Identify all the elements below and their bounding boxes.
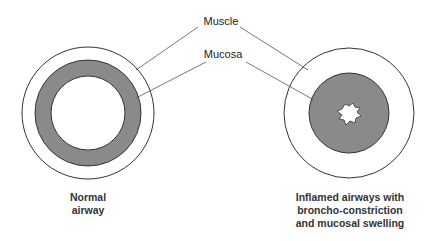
- caption-line: airway: [58, 204, 118, 217]
- leader-lines: [136, 27, 314, 100]
- caption-line: Normal: [58, 191, 118, 204]
- normal-lumen: [51, 76, 125, 150]
- muscle-label: Muscle: [201, 15, 241, 28]
- inflamed-airway-caption: Inflamed airways with broncho-constricti…: [288, 191, 412, 230]
- caption-line: and mucosal swelling: [288, 217, 412, 230]
- caption-line: broncho-constriction: [288, 204, 412, 217]
- caption-line: Inflamed airways with: [288, 191, 412, 204]
- normal-airway-caption: Normal airway: [58, 191, 118, 217]
- normal-airway: [22, 47, 154, 179]
- mucosa-label: Mucosa: [201, 48, 245, 61]
- airway-diagram: Muscle Mucosa Normal airway Inflamed air…: [0, 0, 436, 241]
